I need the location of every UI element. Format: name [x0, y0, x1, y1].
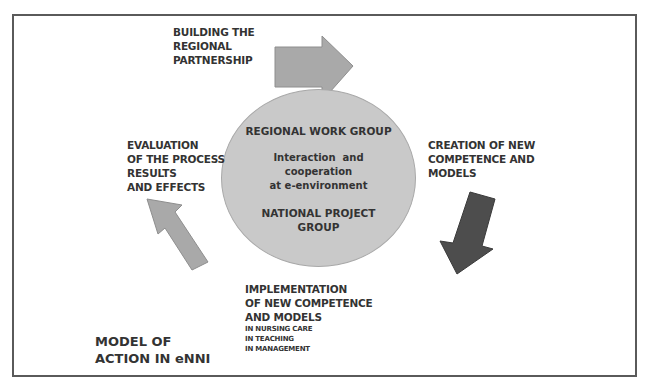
arrow-up-left-icon — [147, 199, 208, 270]
center-heading: REGIONAL WORK GROUP — [222, 125, 415, 137]
stage-evaluation: EVALUATION OF THE PROCESS RESULTS AND EF… — [127, 138, 225, 194]
center-middle-1: Interaction and — [222, 152, 415, 163]
arrow-down-left-icon — [440, 192, 495, 274]
center-footer-1: NATIONAL PROJECT — [222, 207, 415, 219]
impl-sub-1: IN NURSING CARE — [245, 324, 373, 334]
stage-creation: CREATION OF NEW COMPETENCE AND MODELS — [428, 138, 535, 180]
stage-building: BUILDING THE REGIONAL PARTNERSHIP — [173, 25, 255, 67]
stage-implementation: IMPLEMENTATION OF NEW COMPETENCE AND MOD… — [245, 282, 373, 354]
impl-sub-2: IN TEACHING — [245, 334, 373, 344]
center-ellipse: REGIONAL WORK GROUP Interaction and coop… — [221, 89, 416, 267]
center-middle-2: cooperation — [222, 166, 415, 177]
center-middle-3: at e-environment — [222, 180, 415, 191]
diagram-title: MODEL OF ACTION IN eNNI — [95, 333, 210, 367]
center-footer-2: GROUP — [222, 221, 415, 233]
impl-sub-3: IN MANAGEMENT — [245, 344, 373, 354]
